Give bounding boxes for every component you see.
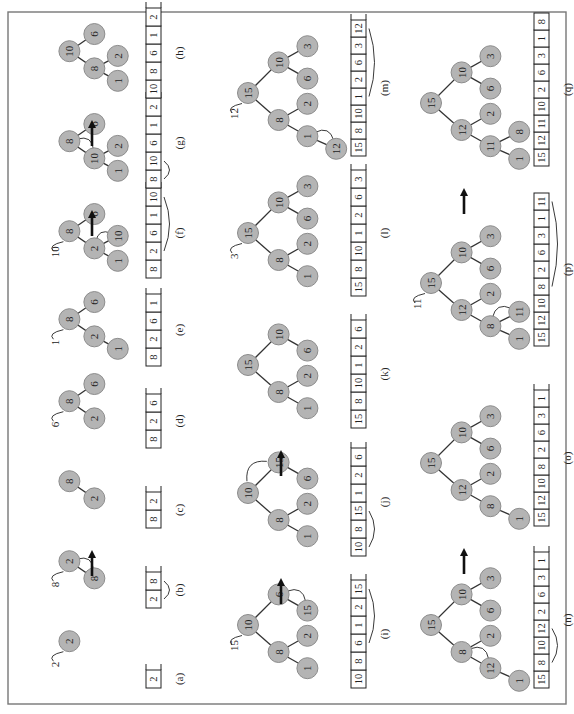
heap-node-value: 8 — [273, 257, 285, 263]
heap-node-value: 8 — [273, 517, 285, 523]
heap-node: 10 — [84, 148, 105, 169]
heap-node-value: 8 — [273, 117, 285, 123]
heap-node-value: 10 — [273, 56, 285, 68]
heap-node-value: 10 — [456, 66, 468, 78]
heap-node: 15 — [421, 93, 442, 114]
array-cell-value: 8 — [353, 128, 364, 133]
array-cell-value: 2 — [536, 267, 547, 272]
heap-node: 12 — [451, 480, 472, 501]
array-cell-value: 2 — [536, 609, 547, 614]
heap-node-value: 12 — [330, 143, 342, 154]
heap-node-value: 6 — [301, 215, 313, 221]
array-cell-value: 1 — [536, 558, 547, 563]
array-cell-value: 1 — [148, 32, 159, 37]
array-cell-value: 10 — [353, 378, 364, 389]
heap-figure: 222(a)28828(b)8282(c)8266826(d)826118261… — [0, 0, 574, 714]
heap-node: 1 — [297, 658, 318, 679]
heap-node: 2 — [480, 625, 501, 646]
heap-node-value: 2 — [484, 471, 496, 477]
heap-node: 15 — [421, 273, 442, 294]
heap-node: 8 — [59, 471, 80, 492]
heap-node: 8 — [59, 391, 80, 412]
heap-node: 15 — [238, 83, 259, 104]
heap-node-value: 6 — [484, 607, 496, 613]
heap-node-value: 3 — [301, 183, 313, 189]
heap-node: 3 — [480, 46, 501, 67]
heap-node-value: 10 — [88, 152, 100, 164]
heap-node-value: 2 — [112, 143, 124, 149]
heap-node-value: 15 — [242, 227, 254, 239]
heap-node: 8 — [84, 58, 105, 79]
heap-node: 1 — [297, 266, 318, 287]
heap-node: 3 — [297, 176, 318, 197]
heap-node: 6 — [84, 204, 105, 225]
inserted-value-label: 1 — [49, 340, 61, 346]
heap-node-value: 2 — [484, 111, 496, 117]
heap-node-value: 10 — [63, 45, 75, 57]
panel-label: (i) — [378, 628, 391, 639]
array-cell-value: 15 — [536, 332, 547, 343]
heap-node: 2 — [297, 625, 318, 646]
heap-node: 1 — [107, 70, 128, 91]
array-cell-value: 2 — [148, 498, 159, 503]
heap-node-value: 10 — [273, 196, 285, 208]
array-cell-value: 8 — [536, 464, 547, 469]
heap-node-value: 1 — [301, 665, 313, 671]
array-cell-value: 8 — [353, 658, 364, 663]
array-cell-value: 8 — [353, 526, 364, 531]
heap-node-value: 11 — [484, 141, 496, 152]
array-cell-value: 8 — [536, 284, 547, 289]
heap-node: 10 — [268, 324, 289, 345]
heap-node-value: 1 — [301, 533, 313, 539]
heap-node-value: 2 — [88, 416, 100, 422]
array-cell-value: 12 — [536, 623, 547, 634]
array-cell-value: 2 — [148, 418, 159, 423]
heap-node: 10 — [268, 52, 289, 73]
array-cell-value: 8 — [148, 68, 159, 73]
array-cell-value: 2 — [353, 77, 364, 82]
array-cell-value: 10 — [148, 156, 159, 167]
heap-node: 2 — [107, 45, 128, 66]
heap-node-value: 3 — [484, 53, 496, 59]
array-cell-value: 8 — [148, 578, 159, 583]
array-cell-value: 3 — [536, 53, 547, 58]
heap-node-value: 11 — [513, 307, 525, 318]
panel-label: (d) — [173, 414, 186, 427]
array-cell-value: 15 — [353, 142, 364, 153]
array-cell-value: 2 — [536, 447, 547, 452]
panel-label: (c) — [173, 504, 186, 517]
heap-node-value: 15 — [273, 456, 285, 468]
array-cell-value: 3 — [353, 176, 364, 181]
heap-node: 8 — [480, 316, 501, 337]
heap-node-value: 6 — [484, 85, 496, 91]
heap-node-value: 10 — [242, 487, 254, 499]
array-cell-value: 8 — [536, 660, 547, 665]
heap-node: 2 — [480, 103, 501, 124]
array-cell-value: 2 — [148, 104, 159, 109]
heap-node-value: 1 — [112, 258, 124, 264]
heap-node-value: 6 — [88, 381, 100, 387]
heap-node: 10 — [451, 584, 472, 605]
array-cell-value: 15 — [353, 282, 364, 293]
panel-label: (l) — [378, 227, 391, 238]
panel-label: (p) — [561, 263, 574, 276]
heap-node: 1 — [107, 250, 128, 271]
array-cell-value: 1 — [148, 212, 159, 217]
array-cell-value: 8 — [353, 398, 364, 403]
array-cell-value: 10 — [148, 84, 159, 95]
heap-node-value: 1 — [513, 516, 525, 522]
array-cell-value: 6 — [148, 400, 159, 405]
array-cell-value: 2 — [148, 14, 159, 19]
array-cell-value: 8 — [353, 266, 364, 271]
heap-node-value: 6 — [88, 31, 100, 37]
panel-label: (m) — [378, 80, 391, 96]
heap-node: 2 — [297, 365, 318, 386]
heap-node: 12 — [451, 300, 472, 321]
heap-node: 8 — [509, 121, 530, 142]
panel-label: (q) — [561, 83, 574, 96]
panel-label: (k) — [378, 367, 391, 380]
array-cell-value: 1 — [148, 300, 159, 305]
heap-node-value: 1 — [301, 405, 313, 411]
panel-label: (a) — [173, 673, 186, 686]
array-cell-value: 6 — [353, 60, 364, 65]
